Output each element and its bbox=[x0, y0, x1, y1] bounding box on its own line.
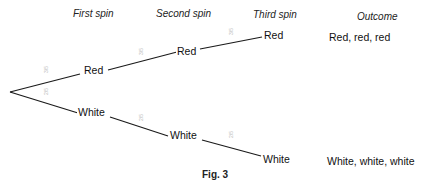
prob-third-white: 2/5 bbox=[229, 131, 234, 138]
branch-third-red bbox=[200, 37, 262, 49]
outcome-red-red-red: Red, red, red bbox=[329, 31, 390, 43]
node-first-white: White bbox=[77, 106, 106, 118]
node-second-red: Red bbox=[176, 45, 197, 57]
prob-third-red: 3/5 bbox=[229, 28, 234, 35]
header-second-spin: Second spin bbox=[156, 8, 211, 19]
header-outcome: Outcome bbox=[357, 11, 398, 22]
node-second-white: White bbox=[169, 129, 198, 141]
node-third-white: White bbox=[262, 153, 291, 165]
outcome-white-white-white: White, white, white bbox=[327, 155, 415, 167]
header-first-spin: First spin bbox=[73, 8, 114, 19]
branch-third-white bbox=[202, 140, 261, 156]
node-third-red: Red bbox=[263, 29, 284, 41]
figure-caption: Fig. 3 bbox=[202, 169, 228, 180]
node-first-red: Red bbox=[83, 64, 104, 76]
prob-second-white: 2/5 bbox=[139, 114, 144, 121]
prob-first-white: 2/5 bbox=[44, 88, 49, 95]
header-third-spin: Third spin bbox=[253, 9, 297, 20]
prob-second-red: 3/5 bbox=[139, 48, 144, 55]
prob-first-red: 3/5 bbox=[44, 66, 49, 73]
branch-first-white bbox=[10, 92, 78, 113]
